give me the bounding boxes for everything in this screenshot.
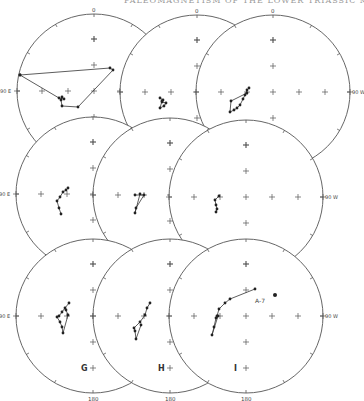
axis-label-west: 90 W — [325, 313, 338, 319]
reference-point — [273, 293, 277, 297]
data-point — [135, 207, 138, 210]
axis-label-west: 90 W — [352, 89, 364, 95]
data-point — [159, 97, 162, 100]
data-point — [140, 324, 143, 327]
data-point — [61, 311, 64, 314]
data-point — [133, 327, 136, 330]
stereonet-figure: A090 EB0C090 WD90 EEF90 WG90 E180H180A-7… — [0, 0, 364, 401]
data-point — [61, 326, 64, 329]
data-point — [165, 102, 168, 105]
axis-label-north: 0 — [92, 7, 96, 13]
data-point — [214, 199, 217, 202]
data-point — [149, 302, 152, 305]
data-point — [211, 334, 214, 337]
data-point — [134, 330, 137, 333]
axis-label-east: 90 E — [0, 191, 10, 197]
data-point — [246, 89, 249, 92]
data-point — [230, 100, 233, 103]
data-point — [146, 307, 149, 310]
data-point — [244, 94, 247, 97]
data-point — [135, 338, 138, 341]
data-point — [68, 302, 71, 305]
annotation-label: A-7 — [255, 297, 265, 304]
data-point — [236, 107, 239, 110]
data-point — [224, 302, 227, 305]
data-point — [65, 309, 68, 312]
data-point — [215, 211, 218, 214]
data-point — [161, 100, 164, 103]
axis-label-south: 180 — [165, 396, 176, 401]
data-point — [143, 194, 146, 197]
data-point — [159, 107, 162, 110]
data-point — [19, 74, 22, 77]
data-point — [59, 196, 62, 199]
data-point — [60, 99, 63, 102]
data-point — [61, 96, 64, 99]
data-point — [246, 92, 249, 95]
data-point — [217, 315, 220, 318]
panel-label: I — [234, 364, 237, 373]
axis-label-east: 90 E — [0, 313, 10, 319]
data-point — [77, 106, 80, 109]
data-point — [144, 314, 147, 317]
axis-label-south: 180 — [241, 396, 252, 401]
data-point — [215, 317, 218, 320]
data-point — [56, 316, 59, 319]
data-point — [139, 321, 142, 324]
axis-label-north: 0 — [271, 8, 275, 14]
data-point — [112, 69, 115, 72]
axis-label-north: 0 — [195, 8, 199, 14]
data-point — [134, 194, 137, 197]
data-point — [67, 187, 70, 190]
data-point — [67, 314, 70, 317]
data-point — [254, 288, 257, 291]
data-point — [62, 332, 65, 335]
data-point — [229, 298, 232, 301]
data-point — [163, 105, 166, 108]
data-point — [65, 189, 68, 192]
data-point — [139, 193, 142, 196]
axis-label-south: 180 — [88, 396, 99, 401]
data-point — [233, 109, 236, 112]
data-point — [248, 87, 251, 90]
data-point — [58, 207, 61, 210]
data-point — [59, 321, 62, 324]
data-point — [218, 195, 221, 198]
data-point — [229, 111, 232, 114]
data-point — [62, 191, 65, 194]
axis-label-west: 90 W — [325, 194, 338, 200]
panel-label: H — [158, 364, 165, 373]
data-point — [239, 104, 242, 107]
data-point — [218, 308, 221, 311]
data-point — [213, 326, 216, 329]
data-point — [60, 213, 63, 216]
data-point — [242, 98, 245, 101]
data-point — [63, 98, 66, 101]
axis-label-east: 90 E — [0, 88, 11, 94]
data-point — [109, 67, 112, 70]
data-point — [56, 200, 59, 203]
data-point — [134, 212, 137, 215]
data-point — [58, 97, 61, 100]
data-point — [216, 208, 219, 211]
data-point — [215, 204, 218, 207]
data-point — [61, 105, 64, 108]
panel-label: G — [81, 364, 88, 373]
